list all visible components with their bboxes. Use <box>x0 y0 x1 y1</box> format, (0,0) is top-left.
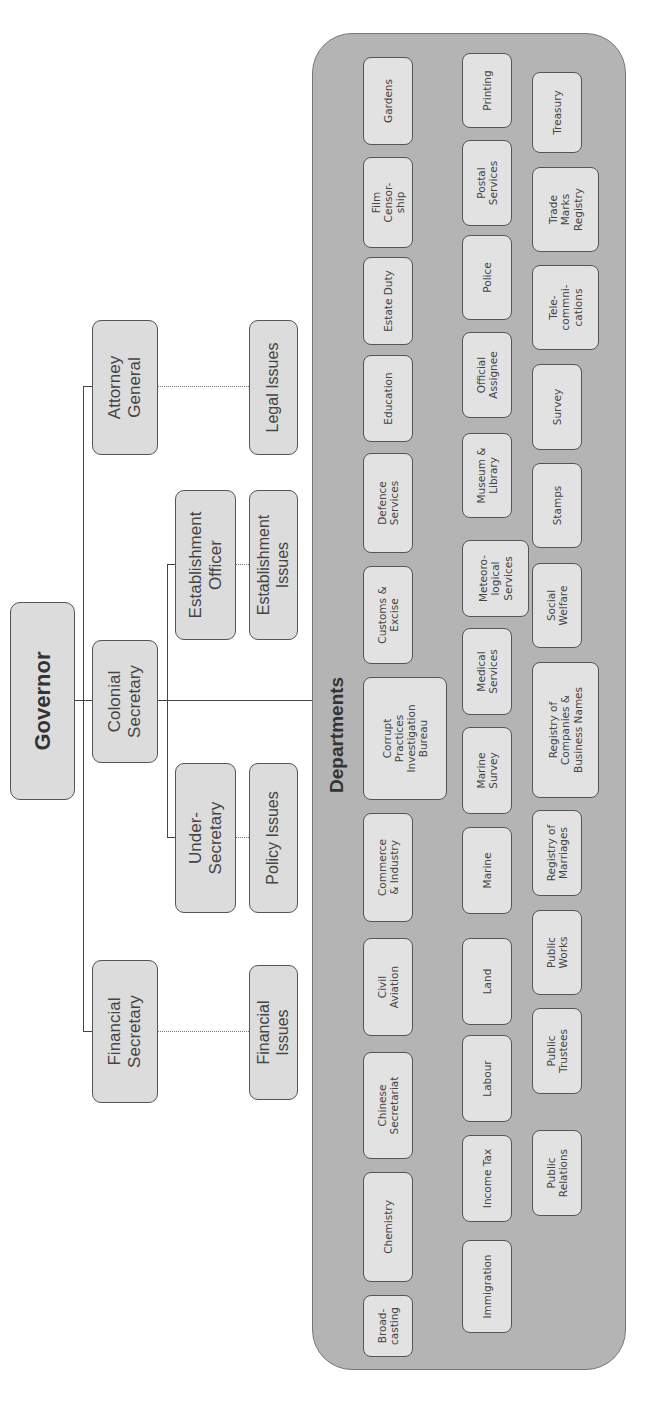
dept-immigration: Immigration <box>462 1240 512 1333</box>
policy-issues-box: Policy Issues <box>249 763 298 913</box>
connector-establishment-officer <box>167 564 175 565</box>
dept-postal-services: Postal Services <box>462 140 512 226</box>
dept-income-tax: Income Tax <box>462 1135 512 1222</box>
dotted-attorney-legal <box>158 386 249 387</box>
dept-labour: Labour <box>462 1035 512 1122</box>
establishment-officer-box: Establishment Officer <box>175 490 236 640</box>
dept-official-assignee: Official Assignee <box>462 332 512 418</box>
dotted-financial-issues <box>158 1031 249 1032</box>
org-chart: Governor Attorney General Colonial Secre… <box>0 0 648 1418</box>
colonial-secretary-box: Colonial Secretary <box>92 640 158 763</box>
dotted-policy <box>236 837 249 838</box>
connector-colonial-sub <box>167 565 168 838</box>
dept-registry-marriages: Registry of Marriages <box>532 810 582 896</box>
dept-registry-companies: Registry of Companies & Business Names <box>532 662 599 798</box>
dept-chemistry: Chemistry <box>363 1172 413 1282</box>
under-secretary-box: Under- Secretary <box>175 763 236 913</box>
dept-public-works: Public Works <box>532 910 582 995</box>
dept-medical-services: Medical Services <box>462 628 512 715</box>
dept-commerce-industry: Commerce & Industry <box>363 813 413 922</box>
dept-police: Police <box>462 235 512 320</box>
dotted-establishment <box>236 564 249 565</box>
connector-main-spine <box>83 387 84 1032</box>
connector-attorney <box>83 386 92 387</box>
governor-box: Governor <box>10 602 75 800</box>
dept-survey: Survey <box>532 364 582 450</box>
dept-marine-survey: Marine Survey <box>462 727 512 814</box>
dept-social-welfare: Social Welfare <box>532 563 582 648</box>
dept-corrupt-practices: Corrupt Practices Investigation Bureau <box>363 677 447 800</box>
dept-telecommunications: Tele- commni- cations <box>532 265 599 350</box>
dept-trade-marks-registry: Trade Marks Registry <box>532 167 599 252</box>
dept-broadcasting: Broad- casting <box>363 1295 413 1357</box>
dept-civil-aviation: Civil Aviation <box>363 938 413 1036</box>
connector-under-secretary <box>167 837 175 838</box>
dept-chinese-secretariat: Chinese Secretariat <box>363 1052 413 1159</box>
dept-customs-excise: Customs & Excise <box>363 566 413 664</box>
dept-estate-duty: Estate Duty <box>363 257 413 345</box>
dept-gardens: Gardens <box>363 57 413 145</box>
establishment-issues-box: Establishment Issues <box>249 490 298 640</box>
dept-public-relations: Public Relations <box>532 1130 582 1216</box>
financial-issues-box: Financial Issues <box>249 965 298 1100</box>
dept-film-censorship: Film Censor- ship <box>363 157 413 248</box>
connector-financial <box>83 1031 92 1032</box>
dept-public-trustees: Public Trustees <box>532 1008 582 1094</box>
departments-title: Departments <box>326 677 348 793</box>
attorney-general-box: Attorney General <box>92 320 158 455</box>
dept-stamps: Stamps <box>532 463 582 548</box>
dept-marine: Marine <box>462 827 512 914</box>
dept-defence-services: Defence Services <box>363 453 413 553</box>
legal-issues-box: Legal Issues <box>249 320 298 455</box>
dept-printing: Printing <box>462 53 512 128</box>
financial-secretary-box: Financial Secretary <box>92 960 158 1103</box>
dept-education: Education <box>363 355 413 442</box>
dept-museum-library: Museum & Library <box>462 433 512 518</box>
dept-meteorological-services: Meteoro- logical Services <box>462 540 529 617</box>
dept-treasury: Treasury <box>532 72 582 153</box>
dept-land: Land <box>462 938 512 1025</box>
